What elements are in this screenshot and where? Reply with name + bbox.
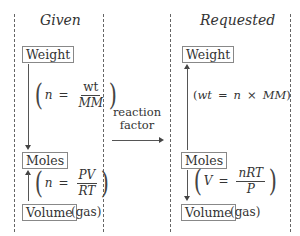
fraction-numerator: PV <box>77 169 98 184</box>
given-heading: Given <box>40 12 81 28</box>
fraction-denominator: RT <box>77 184 98 198</box>
formula-equals: = <box>218 174 228 188</box>
formula-fraction: wt MM <box>77 81 106 110</box>
requested-volume-note: (gas) <box>230 205 260 219</box>
formula-times: × <box>247 88 257 102</box>
requested-left-divider <box>170 14 171 232</box>
given-volume-formula: ( n = PV RT ) <box>33 168 111 198</box>
formula-lhs: n <box>45 88 53 102</box>
fraction-numerator: nRT <box>236 167 265 182</box>
formula-equals: = <box>58 88 68 102</box>
formula-fraction: nRT P <box>236 167 265 196</box>
formula-factor-a: n <box>234 88 241 102</box>
arrow-down-icon <box>184 196 190 201</box>
fraction-denominator: MM <box>77 96 106 110</box>
formula-fraction: PV RT <box>77 169 98 198</box>
requested-moles-to-weight-arrow-line <box>187 68 188 150</box>
right-paren: ) <box>269 166 277 196</box>
left-paren: ( <box>35 80 43 110</box>
given-volume-to-moles-arrow-line <box>28 174 29 201</box>
requested-moles-to-volume-arrow-line <box>187 170 188 197</box>
formula-lhs: wt <box>198 88 212 102</box>
reaction-factor-arrow-line <box>112 140 160 141</box>
given-weight-box: Weight <box>22 46 74 63</box>
right-paren: ) <box>101 168 109 198</box>
given-volume-box: Volume <box>22 204 77 221</box>
given-left-divider <box>14 14 15 232</box>
requested-weight-formula: (wt = n × MM) <box>193 88 291 102</box>
given-weight-to-moles-arrow-line <box>28 64 29 146</box>
requested-heading: Requested <box>200 12 275 28</box>
left-paren: ( <box>194 166 202 196</box>
requested-weight-box: Weight <box>182 46 234 63</box>
given-volume-note: (gas) <box>71 205 101 219</box>
arrow-down-icon <box>25 145 31 150</box>
formula-lhs: V <box>204 174 213 188</box>
fraction-numerator: wt <box>81 81 100 96</box>
requested-volume-formula: ( V = nRT P ) <box>192 166 279 196</box>
arrow-right-icon <box>159 137 164 143</box>
fraction-denominator: P <box>245 182 257 196</box>
factor-label: factor <box>105 119 169 132</box>
formula-equals: = <box>218 88 228 102</box>
left-paren: ( <box>35 168 43 198</box>
given-moles-box: Moles <box>22 152 68 169</box>
formula-factor-b: MM <box>263 88 287 102</box>
requested-volume-box: Volume <box>181 204 236 221</box>
formula-equals: = <box>58 176 68 190</box>
requested-right-divider <box>290 14 291 232</box>
formula-lhs: n <box>45 176 53 190</box>
reaction-factor-label: reaction factor <box>105 106 169 132</box>
